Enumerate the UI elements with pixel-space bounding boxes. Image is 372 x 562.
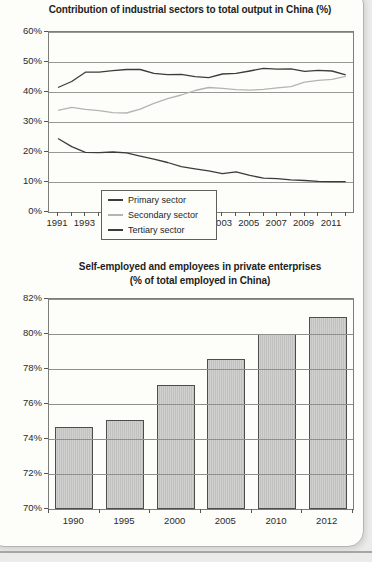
- y-axis-tick-label: 60%: [12, 25, 42, 36]
- x-axis-tick-mark: [276, 212, 277, 216]
- x-axis-tick-mark: [304, 212, 305, 216]
- line-chart-legend: Primary sectorSecondary sectorTertiary s…: [101, 190, 217, 240]
- legend-item-primary-sector: Primary sector: [108, 194, 216, 207]
- series-line-secondary-sector: [58, 76, 346, 113]
- x-axis-tick-mark: [235, 212, 236, 216]
- bar-2000: [157, 385, 195, 509]
- y-axis-tick-mark: [44, 438, 48, 439]
- legend-item-label: Primary sector: [128, 195, 186, 205]
- y-axis-tick-label: 70%: [12, 502, 42, 513]
- bar-2005: [207, 359, 245, 510]
- x-axis-tick-label: 1993: [69, 217, 99, 228]
- x-axis-tick-mark: [84, 212, 85, 216]
- y-axis-tick-mark: [44, 403, 48, 404]
- x-axis-tick-label: 2009: [289, 217, 319, 228]
- x-axis-tick-label: 1995: [109, 515, 139, 526]
- x-axis-tick-mark: [99, 509, 100, 513]
- y-axis-tick-mark: [44, 91, 48, 92]
- line-chart-title: Contribution of industrial sectors to to…: [0, 4, 372, 15]
- bar-chart-plot-area: [48, 298, 354, 510]
- x-axis-tick-label: 2000: [160, 515, 190, 526]
- y-axis-tick-label: 10%: [12, 175, 42, 186]
- x-axis-tick-mark: [331, 212, 332, 216]
- y-axis-tick-label: 20%: [12, 145, 42, 156]
- x-axis-tick-mark: [301, 509, 302, 513]
- x-axis-tick-mark: [352, 509, 353, 513]
- x-axis-tick-mark: [200, 509, 201, 513]
- y-axis-tick-mark: [44, 61, 48, 62]
- legend-item-tertiary-sector: Tertiary sector: [108, 224, 216, 237]
- y-axis-tick-label: 80%: [12, 327, 42, 338]
- y-axis-tick-mark: [44, 473, 48, 474]
- bar-1995: [106, 420, 144, 509]
- bar-2012: [309, 317, 347, 510]
- y-axis-tick-label: 0%: [12, 205, 42, 216]
- y-axis-tick-label: 82%: [12, 292, 42, 303]
- x-axis-tick-label: 2005: [234, 217, 264, 228]
- x-axis-tick-mark: [71, 212, 72, 216]
- bar-chart-gridlines: [49, 299, 353, 509]
- x-axis-tick-mark: [290, 212, 291, 216]
- x-axis-tick-label: 1990: [58, 515, 88, 526]
- line-chart-plot-area: Primary sectorSecondary sectorTertiary s…: [48, 31, 354, 213]
- line-chart-series-svg: [49, 32, 353, 212]
- y-axis-tick-mark: [44, 211, 48, 212]
- y-axis-tick-mark: [44, 31, 48, 32]
- y-axis-tick-label: 74%: [12, 432, 42, 443]
- x-axis-tick-label: 2011: [316, 217, 346, 228]
- y-axis-tick-label: 76%: [12, 397, 42, 408]
- legend-item-label: Tertiary sector: [128, 225, 185, 235]
- x-axis-tick-mark: [48, 509, 49, 513]
- x-axis-tick-label: 2012: [312, 515, 342, 526]
- x-axis-tick-mark: [249, 212, 250, 216]
- x-axis-tick-mark: [149, 509, 150, 513]
- x-axis-tick-mark: [221, 212, 222, 216]
- x-axis-tick-label: 1991: [42, 217, 72, 228]
- x-axis-tick-label: 2005: [210, 515, 240, 526]
- series-line-tertiary-sector: [58, 68, 346, 87]
- page-bottom-edge: [0, 551, 372, 553]
- bar-chart-title: Self-employed and employees in private e…: [14, 261, 372, 272]
- x-axis-tick-mark: [263, 212, 264, 216]
- y-axis-tick-label: 78%: [12, 362, 42, 373]
- legend-item-label: Secondary sector: [128, 210, 198, 220]
- y-axis-tick-mark: [44, 121, 48, 122]
- bar-1990: [55, 427, 93, 509]
- x-axis-tick-mark: [98, 212, 99, 216]
- legend-item-secondary-sector: Secondary sector: [108, 209, 216, 222]
- y-axis-tick-mark: [44, 333, 48, 334]
- series-line-primary-sector: [58, 139, 346, 182]
- legend-line-swatch: [108, 214, 123, 216]
- bar-chart-subtitle: (% of total employed in China): [14, 275, 372, 286]
- x-axis-tick-mark: [251, 509, 252, 513]
- legend-line-swatch: [108, 229, 123, 231]
- x-axis-tick-mark: [317, 212, 318, 216]
- bar-2010: [258, 334, 296, 509]
- y-axis-tick-mark: [44, 298, 48, 299]
- legend-line-swatch: [108, 199, 123, 201]
- y-axis-tick-mark: [44, 368, 48, 369]
- x-axis-tick-label: 2010: [261, 515, 291, 526]
- y-axis-tick-mark: [44, 181, 48, 182]
- x-axis-tick-mark: [345, 212, 346, 216]
- x-axis-tick-label: 2007: [261, 217, 291, 228]
- y-axis-tick-label: 72%: [12, 467, 42, 478]
- y-axis-tick-label: 50%: [12, 55, 42, 66]
- y-axis-tick-label: 30%: [12, 115, 42, 126]
- y-axis-tick-label: 40%: [12, 85, 42, 96]
- y-axis-tick-mark: [44, 151, 48, 152]
- x-axis-tick-mark: [57, 212, 58, 216]
